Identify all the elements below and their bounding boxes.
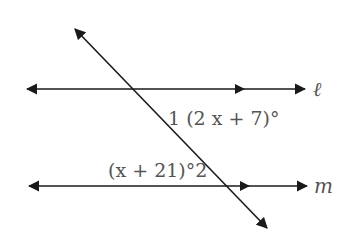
parallel-mark-arrow-icon [240,181,250,191]
angle-1-label: 1 (2 x + 7)° [168,107,279,129]
line-l [27,84,305,94]
line-l-label: ℓ [313,77,322,101]
angle-2-label: (x + 21)°2 [108,159,207,181]
parallel-mark-arrow-icon [235,84,245,94]
line-m-label: m [314,174,333,198]
parallel-lines-diagram: ℓ m 1 (2 x + 7)° (x + 21)°2 [0,0,357,243]
line-m [29,181,307,191]
